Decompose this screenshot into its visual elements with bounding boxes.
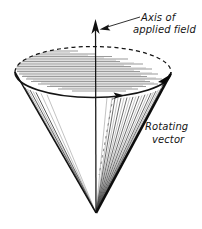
cone-left-edge: [15, 72, 96, 213]
vector-label-line1: Rotating: [145, 121, 188, 132]
vector-label-line2: vector: [152, 134, 185, 145]
axis-label-line2: applied field: [133, 24, 196, 35]
ellipse-front-solid: [15, 72, 171, 98]
disc-hatching-fine: [15, 52, 156, 87]
precession-cone-figure: Axis of applied field Rotating vector: [0, 0, 202, 229]
axis-label-line1: Axis of: [140, 12, 177, 23]
disc-hatching: [16, 51, 163, 91]
leader-arrow-icon: [100, 25, 111, 31]
axis-line: [96, 24, 97, 213]
